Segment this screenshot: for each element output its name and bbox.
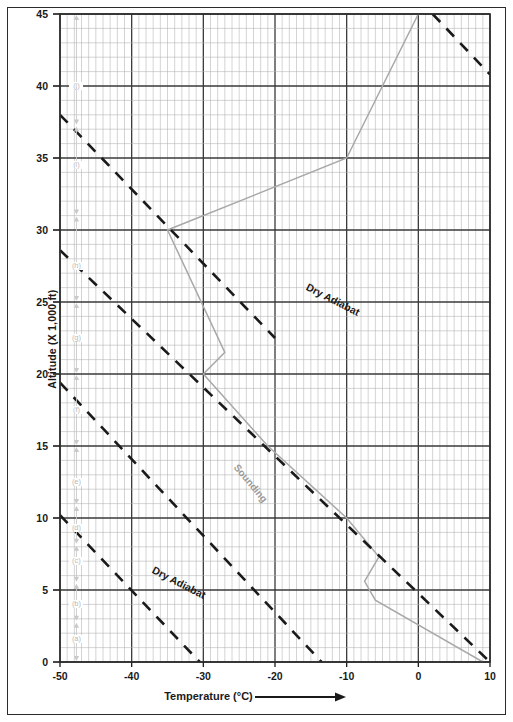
- y-tick-label: 20: [22, 368, 48, 380]
- segment-label: (h): [69, 262, 83, 270]
- y-tick-label: 30: [22, 224, 48, 236]
- x-axis-title-text: Temperature (°C): [164, 690, 253, 702]
- segment-label: (c): [69, 557, 83, 565]
- x-tick-label: -30: [183, 670, 223, 682]
- segment-label: (d): [69, 524, 83, 532]
- x-axis-arrow-icon: [253, 691, 349, 702]
- y-axis-title: Altitude (X 1,000 ft): [46, 246, 58, 426]
- x-tick-label: -40: [112, 670, 152, 682]
- segment-label: (e): [69, 478, 83, 486]
- figure-root: 051015202530354045 -50-40-30-20-10010 (a…: [0, 0, 513, 722]
- segment-label: (i): [69, 161, 83, 169]
- y-tick-label: 5: [22, 584, 48, 596]
- axis-ticks: [53, 14, 490, 667]
- y-tick-label: 0: [22, 656, 48, 668]
- y-axis-arrow: [46, 283, 58, 286]
- segment-label: (b): [69, 600, 83, 608]
- segment-label: (g): [69, 334, 83, 342]
- segment-label: (a): [69, 635, 83, 643]
- x-tick-label: -50: [40, 670, 80, 682]
- y-tick-label: 40: [22, 80, 48, 92]
- y-axis-title-text: Altitude (X 1,000 ft): [46, 289, 58, 388]
- y-tick-label: 10: [22, 512, 48, 524]
- chart-canvas: [0, 0, 513, 722]
- y-tick-label: 35: [22, 152, 48, 164]
- y-tick-label: 25: [22, 296, 48, 308]
- segment-label: (f): [69, 406, 83, 414]
- y-tick-label: 45: [22, 8, 48, 20]
- x-tick-label: 0: [398, 670, 438, 682]
- x-tick-label: -20: [255, 670, 295, 682]
- x-tick-label: 10: [470, 670, 510, 682]
- segment-label: (j): [69, 82, 83, 90]
- y-tick-label: 15: [22, 440, 48, 452]
- x-axis-title: Temperature (°C): [0, 689, 513, 702]
- x-tick-label: -10: [327, 670, 367, 682]
